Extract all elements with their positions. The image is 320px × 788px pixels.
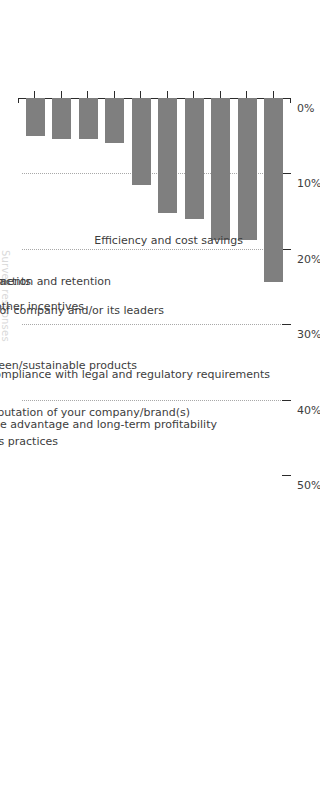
bar[interactable] bbox=[158, 98, 177, 213]
value-tick-label-40%: 40% bbox=[297, 404, 312, 417]
category-label: Efficiency and cost savings bbox=[95, 235, 244, 246]
chart-rotation-wrapper: Survey responses 0%10%20%30%40%50% Compl… bbox=[0, 0, 312, 788]
category-label: Public scrutiny over labor, sourcing, or… bbox=[0, 436, 58, 447]
value-tick-label-50%: 50% bbox=[297, 479, 312, 492]
bar[interactable] bbox=[211, 98, 230, 240]
category-tick bbox=[114, 91, 115, 98]
gridline-20 bbox=[22, 249, 287, 250]
value-axis-cap-bottom bbox=[18, 98, 19, 103]
bar-chart-figure: Survey responses 0%10%20%30%40%50% Compl… bbox=[0, 0, 312, 788]
value-tick-40% bbox=[282, 400, 291, 401]
value-tick-label-30%: 30% bbox=[297, 328, 312, 341]
value-tick-30% bbox=[282, 324, 291, 325]
value-tick-label-0%: 0% bbox=[297, 102, 312, 115]
category-tick bbox=[193, 91, 194, 98]
bar[interactable] bbox=[52, 98, 71, 139]
bar[interactable] bbox=[264, 98, 283, 282]
category-tick bbox=[273, 91, 274, 98]
axis-title: Survey responses bbox=[0, 250, 11, 342]
category-label: Customer demand for green/sustainable pr… bbox=[0, 360, 137, 371]
category-tick bbox=[34, 91, 35, 98]
category-label: Government grants or other incentives bbox=[0, 301, 84, 312]
plot-area: 0%10%20%30%40%50% Compliance with legal … bbox=[22, 98, 287, 475]
bar[interactable] bbox=[79, 98, 98, 139]
bar[interactable] bbox=[238, 98, 257, 240]
category-tick bbox=[140, 91, 141, 98]
bar[interactable] bbox=[105, 98, 124, 143]
category-tick bbox=[246, 91, 247, 98]
bar[interactable] bbox=[185, 98, 204, 219]
category-tick bbox=[167, 91, 168, 98]
category-label: Achieving competitive advantage and long… bbox=[0, 419, 217, 430]
category-tick bbox=[61, 91, 62, 98]
bar[interactable] bbox=[132, 98, 151, 185]
category-label: Managing risk to the reputation of your … bbox=[0, 407, 190, 418]
category-tick bbox=[220, 91, 221, 98]
value-tick-label-10%: 10% bbox=[297, 177, 312, 190]
value-tick-20% bbox=[282, 249, 291, 250]
gridline-30 bbox=[22, 324, 287, 325]
value-tick-10% bbox=[282, 173, 291, 174]
category-label: Supply chain vendor requirements bbox=[0, 276, 31, 287]
value-tick-50% bbox=[282, 475, 291, 476]
bar[interactable] bbox=[26, 98, 45, 136]
gridline-40 bbox=[22, 400, 287, 401]
value-tick-label-20%: 20% bbox=[297, 253, 312, 266]
category-tick bbox=[87, 91, 88, 98]
